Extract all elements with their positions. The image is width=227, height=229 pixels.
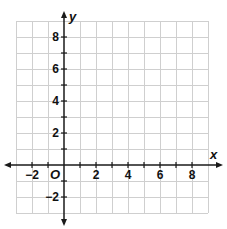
x-tick-label-8: 8 — [189, 168, 196, 182]
x-tick-label-4: 4 — [125, 168, 132, 182]
y-axis-up-arrow-icon — [61, 11, 67, 18]
x-tick-label-2: 2 — [93, 168, 100, 182]
x-tick-label-6: 6 — [157, 168, 164, 182]
x-axis-left-arrow-icon — [4, 162, 11, 168]
x-axis-label: x — [209, 147, 218, 162]
y-tick-label-2: 2 — [52, 126, 59, 140]
coordinate-plane: y x O −2 2 4 6 8 8 6 4 2 −2 — [0, 0, 227, 229]
y-tick-label-8: 8 — [52, 30, 59, 44]
y-axis-label: y — [68, 9, 77, 24]
y-axis — [61, 11, 67, 226]
y-tick-label-4: 4 — [52, 94, 59, 108]
x-axis-right-arrow-icon — [216, 162, 223, 168]
origin-label: O — [50, 167, 60, 182]
grid — [16, 21, 209, 214]
y-tick-label-6: 6 — [52, 62, 59, 76]
x-tick-label-neg2: −2 — [25, 168, 39, 182]
y-tick-label-neg2: −2 — [45, 190, 59, 204]
y-axis-down-arrow-icon — [61, 219, 67, 226]
